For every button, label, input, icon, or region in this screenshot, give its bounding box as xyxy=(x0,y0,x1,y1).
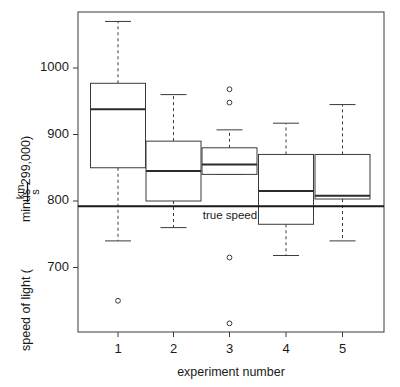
y-axis-title-suffix: minus 299,000) xyxy=(19,136,33,222)
y-axis-tick-label: 700 xyxy=(47,259,69,274)
x-axis-tick-label: 4 xyxy=(282,341,289,356)
box-body xyxy=(91,83,146,167)
true-speed-label: true speed xyxy=(203,209,257,221)
box-body xyxy=(202,148,257,175)
x-axis-tick-label: 3 xyxy=(226,341,233,356)
boxplot-chart: 700800900100012345experiment numberspeed… xyxy=(0,0,400,387)
x-axis-tick-label: 1 xyxy=(114,341,121,356)
y-axis-tick-label: 800 xyxy=(47,192,69,207)
y-axis-tick-label: 1000 xyxy=(40,59,69,74)
box-body xyxy=(259,154,314,224)
box-body xyxy=(315,154,370,199)
x-axis-title: experiment number xyxy=(177,365,285,379)
y-axis-title-prefix: speed of light ( xyxy=(19,268,33,351)
x-axis-tick-label: 2 xyxy=(170,341,177,356)
y-axis-title: speed of light (kms minus 299,000) xyxy=(14,136,41,351)
y-axis-tick-label: 900 xyxy=(47,126,69,141)
x-axis-tick-label: 5 xyxy=(339,341,346,356)
chart-canvas: 700800900100012345experiment numberspeed… xyxy=(0,0,400,387)
